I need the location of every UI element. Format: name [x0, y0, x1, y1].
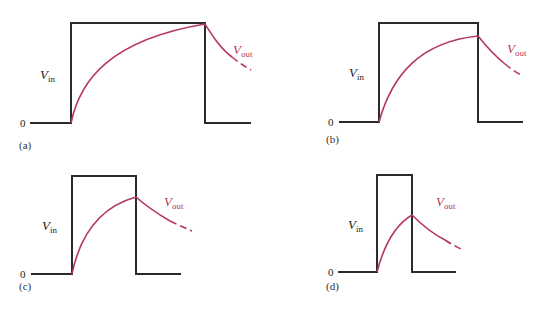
vin-waveform [30, 23, 251, 123]
zero-label: 0 [20, 117, 26, 129]
panel-c: 0 Vin Vout (c) [19, 176, 192, 293]
vin-label: Vin [42, 218, 57, 235]
vout-label: Vout [436, 194, 456, 211]
vout-waveform [71, 24, 232, 123]
panel-label: (b) [326, 133, 339, 146]
rc-pulse-response-diagram: 0 Vin Vout (a) 0 Vin Vout (b) 0 Vin Vout… [0, 0, 538, 314]
vin-label: Vin [40, 67, 55, 84]
vin-label: Vin [349, 65, 364, 82]
vout-label: Vout [233, 42, 253, 59]
zero-label: 0 [20, 268, 26, 280]
panel-label: (d) [326, 280, 339, 293]
panel-d: 0 Vin Vout (d) [326, 175, 463, 293]
vout-decay-dashed [170, 221, 192, 231]
vout-waveform [379, 36, 505, 122]
vin-waveform [339, 23, 523, 122]
panel-label: (a) [19, 139, 32, 152]
panel-label: (c) [19, 280, 32, 293]
vin-label: Vin [348, 217, 363, 234]
panel-b: 0 Vin Vout (b) [326, 23, 527, 146]
vout-label: Vout [507, 41, 527, 58]
vout-decay-dashed [445, 240, 463, 250]
vout-label: Vout [164, 194, 184, 211]
vout-waveform [72, 197, 170, 274]
zero-label: 0 [328, 116, 334, 128]
vout-decay-dashed [505, 64, 523, 76]
zero-label: 0 [328, 266, 334, 278]
panel-a: 0 Vin Vout (a) [19, 23, 253, 152]
